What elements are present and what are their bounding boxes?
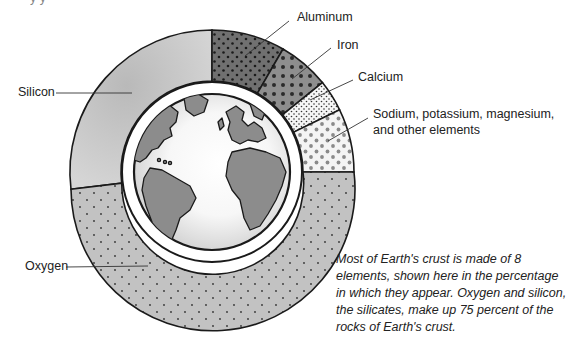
label-oxygen: Oxygen [25, 259, 68, 274]
figure-caption: Most of Earth's crust is made of 8 eleme… [336, 251, 571, 336]
label-aluminum: Aluminum [297, 10, 353, 25]
label-calcium: Calcium [358, 70, 403, 85]
label-silicon: Silicon [18, 85, 55, 100]
label-other-line1: Sodium, potassium, magnesium, [373, 107, 554, 122]
label-iron: Iron [337, 38, 359, 53]
label-other-line2: and other elements [373, 123, 480, 138]
